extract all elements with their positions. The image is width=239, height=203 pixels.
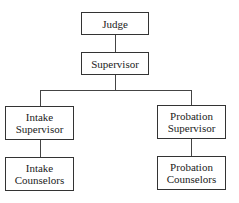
connector-supervisor-branch <box>115 75 116 90</box>
node-intake-counselors: Intake Counselors <box>5 157 74 191</box>
node-judge-label: Judge <box>102 18 128 30</box>
connector-branch-intake <box>40 90 41 106</box>
node-intake-supervisor-line2: Supervisor <box>16 123 64 135</box>
connector-judge-supervisor <box>115 35 116 52</box>
connector-branch-probation <box>191 90 192 105</box>
connector-probation-supervisor-counselors <box>191 139 192 156</box>
node-intake-supervisor-line1: Intake <box>26 111 53 123</box>
node-intake-supervisor: Intake Supervisor <box>5 106 74 140</box>
node-probation-counselors: Probation Counselors <box>157 156 226 190</box>
node-probation-supervisor-line1: Probation <box>170 110 213 122</box>
node-supervisor: Supervisor <box>81 52 149 75</box>
node-intake-counselors-line1: Intake <box>26 162 53 174</box>
connector-intake-supervisor-counselors <box>40 140 41 157</box>
node-supervisor-label: Supervisor <box>91 58 139 70</box>
node-probation-counselors-line2: Counselors <box>167 173 217 185</box>
node-probation-counselors-line1: Probation <box>170 161 213 173</box>
node-intake-counselors-line2: Counselors <box>15 174 65 186</box>
node-probation-supervisor-line2: Supervisor <box>168 122 216 134</box>
node-probation-supervisor: Probation Supervisor <box>157 105 226 139</box>
connector-branch-horizontal <box>40 90 192 91</box>
node-judge: Judge <box>81 12 149 35</box>
